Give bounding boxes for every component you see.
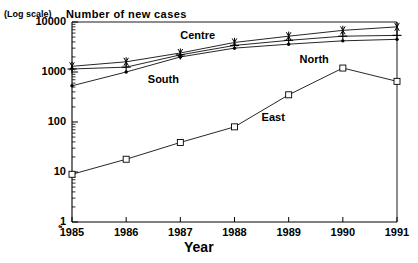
y-tick-label: 10000	[20, 15, 66, 27]
x-tick-label: 1988	[210, 226, 260, 238]
series-label-east: East	[262, 111, 285, 123]
x-tick-label: 1987	[155, 226, 205, 238]
series-label-south: South	[148, 73, 179, 85]
axis-ticks	[72, 22, 397, 222]
x-axis-title: Year	[184, 239, 214, 255]
x-tick-label: 1989	[264, 226, 314, 238]
x-tick-label: 1986	[101, 226, 151, 238]
series-label-centre: Centre	[180, 29, 215, 41]
series-label-north: North	[300, 53, 329, 65]
y-tick-label: 100	[20, 115, 66, 127]
origin-marker: ‹▪	[58, 222, 62, 231]
x-tick-label: 1991	[372, 226, 418, 238]
x-tick-label: 1985	[47, 226, 97, 238]
series-markers	[68, 22, 402, 177]
x-tick-label: 1990	[318, 226, 368, 238]
y-tick-label: 10	[20, 165, 66, 177]
plot-frame	[72, 22, 397, 222]
y-tick-label: 1000	[20, 65, 66, 77]
chart-root: (Log scale) Number of new cases 11010010…	[0, 0, 418, 263]
